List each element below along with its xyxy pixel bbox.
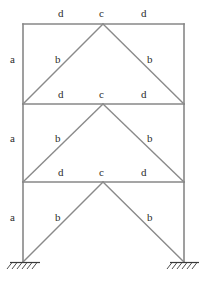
lower-story-brace-right [103, 182, 184, 262]
lower-story-brace-left-label: b [55, 212, 61, 223]
right-support-hatching [167, 263, 197, 270]
columns-group [23, 24, 184, 262]
middle-upper-beam-left-label: d [58, 89, 64, 100]
lower-story-brace-left [23, 182, 103, 262]
middle-lower-beam-right-label: d [141, 167, 147, 178]
right-fixed-support [167, 263, 199, 270]
left-support-hatching [7, 263, 37, 270]
middle-story-column-label: a [10, 133, 15, 144]
middle-story-brace-left-label: b [55, 133, 61, 144]
middle-lower-beam-apex-label: c [99, 167, 104, 178]
lower-story-brace-right-label: b [147, 212, 153, 223]
braces-group [23, 24, 184, 262]
top-beam-left-label: d [58, 8, 64, 19]
middle-upper-beam-right-label: d [141, 89, 147, 100]
upper-story-brace-right-label: b [147, 54, 153, 65]
top-beam-right-label: d [141, 8, 147, 19]
frame-geometry-svg [0, 0, 206, 300]
lower-story-column-label: a [10, 212, 15, 223]
middle-upper-beam-apex-label: c [99, 89, 104, 100]
upper-story-brace-left-label: b [55, 54, 61, 65]
top-beam-apex-label: c [99, 8, 104, 19]
braced-frame-diagram: d c d a b b d c d a b b d c d a b b [0, 0, 206, 300]
middle-lower-beam-left-label: d [58, 167, 64, 178]
upper-story-column-label: a [10, 54, 15, 65]
middle-story-brace-right-label: b [147, 133, 153, 144]
left-fixed-support [7, 263, 40, 270]
